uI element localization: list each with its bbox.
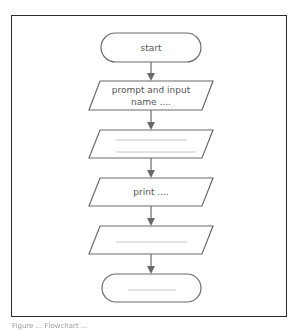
arrow-head-icon [147,170,155,178]
terminator-shape [102,274,201,302]
parallelogram-shape [89,130,213,158]
arrow-head-icon [147,218,155,226]
node-start: start [101,33,201,62]
node-output-blank [89,226,213,254]
arrow-head-icon [147,122,155,130]
node-input: prompt and input name .... [89,81,213,110]
figure-caption: Figure ... Flowchart ... [12,322,88,330]
node-label: start [141,43,162,53]
arrow-head-icon [147,73,155,81]
node-label: prompt and input [112,85,191,95]
parallelogram-shape [89,226,213,254]
arrow-head-icon [147,266,155,274]
node-end [102,274,201,302]
node-label: name .... [131,97,171,107]
node-label: print .... [133,187,168,197]
node-print: print .... [89,178,213,206]
node-process-blank [89,130,213,158]
